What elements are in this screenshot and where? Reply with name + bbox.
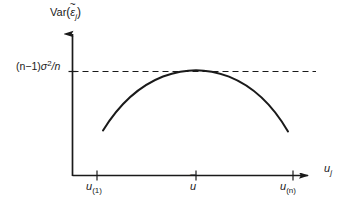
- x-axis-tick-label-mean: ¯u: [190, 181, 196, 192]
- x-tick-last-subscript: (n): [286, 186, 296, 195]
- x-axis-tick-label-first: u(1): [86, 181, 102, 195]
- y-axis-title: Var(~εj): [50, 6, 81, 21]
- x-axis-title-subscript: j: [330, 168, 332, 177]
- y-axis-title-prefix: Var: [50, 6, 66, 18]
- figure-container: Var(~εj) (n−1)σ2/n u(1) ¯u u(n) uj: [0, 0, 348, 204]
- overbar-accent-mark: ¯: [190, 175, 196, 185]
- y-tick-trail: /n: [52, 60, 61, 72]
- tilde-accent-mark: ~: [70, 0, 76, 10]
- y-axis-title-variable: ~ε: [70, 7, 75, 18]
- y-tick-lead: (n−1): [16, 60, 41, 72]
- x-axis-title: uj: [324, 163, 332, 177]
- plot-canvas: [0, 0, 348, 204]
- x-tick-mean-variable: ¯u: [190, 181, 196, 192]
- x-tick-first-subscript: (1): [92, 186, 102, 195]
- y-axis-title-close-paren: ): [77, 5, 81, 19]
- x-axis-tick-label-last: u(n): [280, 181, 296, 195]
- y-axis-tick-label: (n−1)σ2/n: [16, 60, 60, 72]
- variance-curve: [103, 70, 288, 131]
